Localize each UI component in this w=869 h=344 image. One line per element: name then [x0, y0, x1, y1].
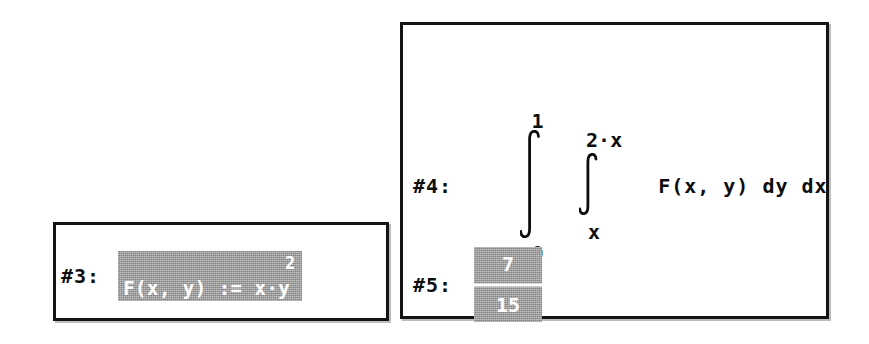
outer-integral: 1 0 [506, 111, 560, 261]
expression-label-4: #4: [413, 174, 452, 198]
result-fraction-highlight[interactable]: 7 15 [474, 247, 542, 322]
definition-expression-exponent: 2 [285, 253, 295, 273]
inner-integral-upper-limit: 2·x [586, 128, 622, 152]
definition-window[interactable]: #3: F(x, y) := x·y 2 [53, 222, 389, 321]
result-numerator: 7 [474, 252, 542, 276]
definition-expression-highlight[interactable]: F(x, y) := x·y 2 [118, 251, 302, 301]
integral-sign-icon [579, 153, 603, 219]
inner-integral: 2·x x [566, 130, 616, 242]
expression-label-3: #3: [61, 264, 100, 288]
inner-integral-lower-limit: x [588, 220, 600, 244]
definition-expression-body: F(x, y) := x·y [123, 277, 290, 299]
integral-sign-icon [520, 130, 546, 242]
expression-row-3[interactable]: #3: F(x, y) := x·y 2 [61, 251, 302, 301]
expression-row-5[interactable]: #5: 7 15 [413, 247, 542, 322]
integral-window[interactable]: #4: 1 0 2·x x F(x, y) dy dx #5: [400, 22, 829, 319]
integrand-expression: F(x, y) dy dx [658, 174, 828, 198]
expression-row-4[interactable]: #4: 1 0 2·x x F(x, y) dy dx [413, 111, 828, 261]
fraction-bar [474, 283, 542, 286]
result-denominator: 15 [474, 293, 542, 317]
expression-label-5: #5: [413, 273, 452, 297]
